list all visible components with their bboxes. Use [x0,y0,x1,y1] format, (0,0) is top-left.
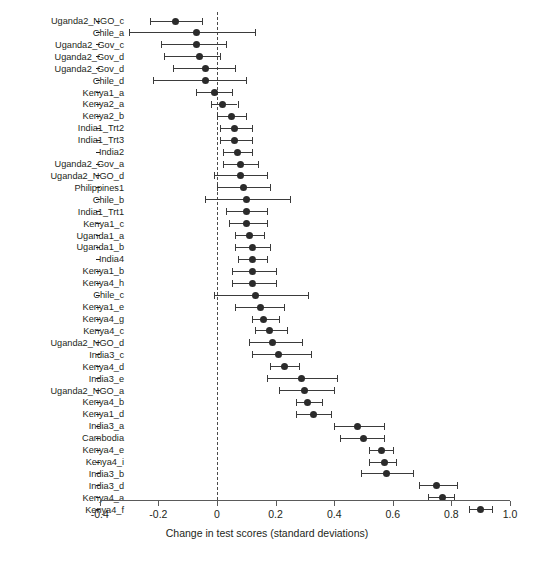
estimate-marker [433,482,440,489]
ci-upper-cap [322,399,323,406]
y-axis-tick [96,319,100,320]
ci-upper-cap [284,304,285,311]
ci-upper-cap [413,470,414,477]
y-axis-tick [96,390,100,391]
y-axis-tick [96,283,100,284]
estimate-marker [172,18,179,25]
study-label: Chile_d [0,75,124,87]
estimate-marker [249,280,256,287]
estimate-marker [269,339,276,346]
ci-lower-cap [267,375,268,382]
y-axis-tick [96,56,100,57]
y-axis-tick [96,473,100,474]
forest-row: Kenya1_a [0,87,534,99]
forest-row: Kenya1_b [0,265,534,277]
ci-lower-cap [369,459,370,466]
study-label: India1_Trt3 [0,134,124,146]
confidence-interval-line [164,56,220,57]
study-label: Uganda2_Gov_c [0,39,124,51]
study-label: Kenya4_e [0,444,124,456]
ci-upper-cap [258,161,259,168]
ci-lower-cap [223,161,224,168]
forest-row: Uganda2_Gov_c [0,39,534,51]
study-label: India3_a [0,420,124,432]
ci-upper-cap [279,316,280,323]
forest-row: Uganda2_NGO_a [0,385,534,397]
x-tick-label: 1.0 [490,508,530,520]
forest-row: Kenya4_g [0,313,534,325]
x-tick-label: 0.4 [314,508,354,520]
x-tick-label: 0.2 [256,508,296,520]
estimate-marker [260,316,267,323]
ci-upper-cap [252,125,253,132]
study-label: Kenya1_d [0,408,124,420]
estimate-marker [211,89,218,96]
estimate-marker [383,470,390,477]
study-label: Kenya4_h [0,277,124,289]
forest-row: Kenya4_b [0,396,534,408]
forest-row: Uganda2_NGO_c [0,15,534,27]
y-axis-tick [96,235,100,236]
study-label: Uganda2_Gov_d [0,51,124,63]
ci-upper-cap [384,435,385,442]
estimate-marker [249,244,256,251]
estimate-marker [234,149,241,156]
plot-area: Uganda2_NGO_cChile_aUganda2_Gov_cUganda2… [0,0,534,500]
study-label: Uganda2_NGO_a [0,385,124,397]
forest-row: Chile_b [0,194,534,206]
forest-row: India2 [0,146,534,158]
x-axis-title: Change in test scores (standard deviatio… [0,527,534,539]
ci-lower-cap [296,411,297,418]
y-axis-tick [96,462,100,463]
estimate-marker [360,435,367,442]
ci-lower-cap [270,363,271,370]
forest-row: Kenya4_i [0,456,534,468]
ci-upper-cap [235,65,236,72]
y-axis-tick [96,259,100,260]
forest-row: India3_b [0,468,534,480]
ci-lower-cap [214,292,215,299]
forest-row: Kenya1_c [0,218,534,230]
study-label: Uganda1_b [0,241,124,253]
ci-lower-cap [252,316,253,323]
estimate-marker [252,292,259,299]
estimate-marker [298,375,305,382]
forest-row: Uganda2_NGO_d [0,170,534,182]
ci-lower-cap [129,29,130,36]
ci-lower-cap [238,256,239,263]
y-axis-tick [96,104,100,105]
study-label: Philippines1 [0,182,124,194]
study-label: Kenya2_b [0,110,124,122]
y-axis-tick [96,116,100,117]
study-label: Kenya4_g [0,313,124,325]
forest-row: Uganda1_a [0,230,534,242]
estimate-marker [240,184,247,191]
estimate-marker [378,447,385,454]
study-label: Uganda2_Gov_a [0,158,124,170]
y-axis-tick [96,354,100,355]
y-axis-tick [96,366,100,367]
study-label: Chile_b [0,194,124,206]
estimate-marker [257,304,264,311]
x-tick [100,501,101,506]
ci-upper-cap [384,423,385,430]
study-label: India1_Trt1 [0,206,124,218]
study-label: Uganda2_NGO_d [0,170,124,182]
ci-lower-cap [211,101,212,108]
study-label: Kenya4_i [0,456,124,468]
forest-row: Uganda2_Gov_a [0,158,534,170]
y-axis-tick [96,342,100,343]
ci-lower-cap [252,351,253,358]
study-label: Uganda2_NGO_c [0,15,124,27]
study-label: Uganda2_Gov_d [0,63,124,75]
ci-lower-cap [255,327,256,334]
forest-row: India1_Trt3 [0,134,534,146]
ci-upper-cap [252,149,253,156]
forest-row: Uganda2_NGO_d [0,337,534,349]
forest-row: Kenya4_c [0,325,534,337]
forest-row: Kenya1_e [0,301,534,313]
study-label: Kenya4_d [0,361,124,373]
x-tick-label: 0 [197,508,237,520]
ci-lower-cap [220,137,221,144]
x-tick [393,501,394,506]
